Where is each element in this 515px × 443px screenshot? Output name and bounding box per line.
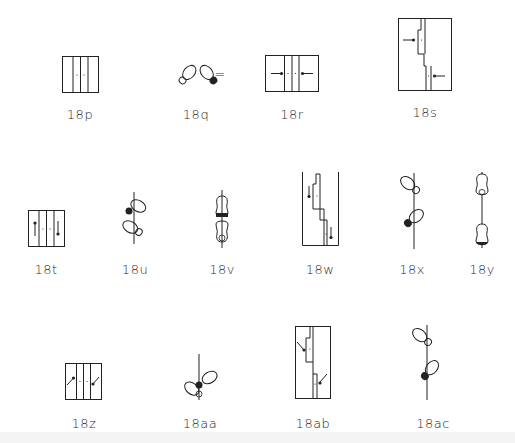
figure-18r	[265, 55, 321, 93]
figure-18p	[62, 56, 100, 94]
figure-18t	[28, 210, 66, 248]
staggered-staff-icon	[302, 172, 340, 248]
figure-label: 18x	[382, 262, 442, 277]
figure-18aa	[183, 354, 217, 400]
figure-18ab	[295, 326, 333, 401]
figure-label: 18r	[262, 107, 322, 122]
staff-diagram-icon	[62, 56, 100, 94]
figure-label: 18aa	[170, 416, 230, 431]
figure-label: 18u	[105, 262, 165, 277]
figure-label: 18w	[290, 262, 350, 277]
figure-label: 18y	[452, 262, 512, 277]
figure-label: 18s	[395, 105, 455, 120]
figure-18v	[212, 190, 232, 248]
feet-icon	[412, 325, 442, 400]
staff-diagram-icon	[28, 210, 66, 248]
figure-18ac	[412, 325, 442, 400]
figure-label: 18p	[50, 107, 110, 122]
figure-label: 18t	[16, 262, 76, 277]
feet-icon	[472, 172, 492, 248]
feet-icon	[398, 173, 426, 249]
staff-diagram-icon	[65, 363, 103, 401]
figure-18u	[120, 192, 150, 244]
staggered-staff-icon	[295, 326, 333, 401]
staggered-staff-icon	[398, 18, 454, 93]
figure-18s	[398, 18, 454, 93]
staff-diagram-icon	[265, 55, 321, 93]
feet-icon	[120, 192, 150, 244]
feet-icon	[212, 190, 232, 248]
figure-label: 18q	[166, 107, 226, 122]
bottom-band	[0, 432, 515, 443]
figure-18w	[302, 172, 340, 248]
equals-sign: =	[210, 66, 230, 81]
feet-icon	[183, 354, 217, 400]
figure-label: 18v	[192, 262, 252, 277]
figure-label: 18ac	[403, 416, 463, 431]
figure-label: 18ab	[283, 416, 343, 431]
figure-18y	[472, 172, 492, 248]
figure-18x	[398, 173, 426, 249]
figure-18z	[65, 363, 103, 401]
figure-label: 18z	[54, 416, 114, 431]
